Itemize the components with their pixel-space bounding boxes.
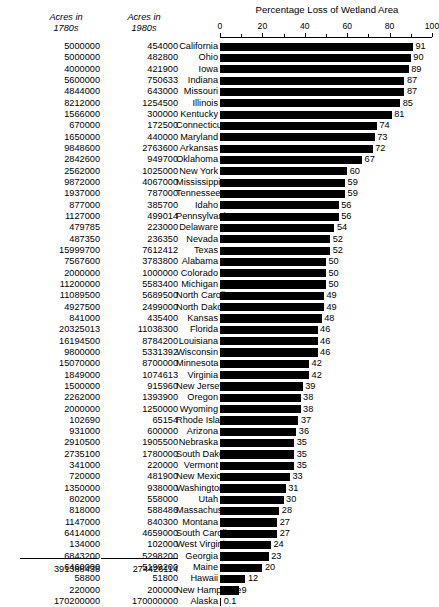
- cell-acres-1780s: 877000: [8, 200, 100, 211]
- cell-state-name: Colorado: [176, 268, 218, 279]
- cell-acres-1980s: 3783800: [96, 256, 178, 267]
- cell-state-name: Michigan: [176, 279, 218, 290]
- cell-acres-1980s: 421900: [96, 64, 178, 75]
- cell-acres-1780s: 4000000: [8, 64, 100, 75]
- cell-acres-1780s: 134000: [8, 539, 100, 550]
- axis-tick-label: 40: [300, 22, 310, 31]
- chart-bar: [220, 348, 318, 356]
- cell-state-name: California: [176, 41, 218, 52]
- cell-acres-1780s: 479785: [8, 222, 100, 233]
- chart-bar: [220, 247, 330, 255]
- cell-acres-1980s: 915960: [96, 381, 178, 392]
- cell-state-name: Maryland: [176, 132, 218, 143]
- chart-rows: 5000000454000California915000000482800Oh…: [0, 41, 439, 607]
- bar-value-label: 33: [292, 471, 302, 482]
- cell-acres-1780s: 9800000: [8, 347, 100, 358]
- cell-acres-1780s: 2000000: [8, 404, 100, 415]
- table-row: 877000385700Idaho56: [0, 200, 439, 211]
- table-row: 29105001905500Nebraska35: [0, 437, 439, 448]
- table-row: 4000000421900Iowa89: [0, 64, 439, 75]
- table-row: 82120001254500Illinois85: [0, 98, 439, 109]
- bar-value-label: 46: [320, 336, 330, 347]
- chart-bar: [220, 258, 326, 266]
- chart-bar: [220, 382, 303, 390]
- chart-bar: [220, 269, 326, 277]
- cell-state-name: Minnesota: [176, 358, 218, 369]
- chart-bar: [220, 473, 290, 481]
- column-header-acres-1780s: Acres in 1780s: [32, 12, 100, 34]
- bar-value-label: 0.1: [224, 596, 237, 607]
- cell-acres-1780s: 1849000: [8, 370, 100, 381]
- cell-acres-1780s: 170200000: [8, 596, 100, 607]
- bar-value-label: 74: [379, 120, 389, 131]
- cell-acres-1980s: 11038300: [96, 324, 178, 335]
- table-row: 487350236350Nevada52: [0, 234, 439, 245]
- cell-acres-1980s: 8784200: [96, 336, 178, 347]
- chart-bar: [220, 326, 318, 334]
- cell-acres-1980s: 300000: [96, 109, 178, 120]
- cell-state-name: Nebraska: [176, 437, 218, 448]
- table-row: 150700008700000Minnesota42: [0, 358, 439, 369]
- cell-state-name: South Carolina: [176, 528, 218, 539]
- cell-state-name: North Carolina: [176, 290, 218, 301]
- table-row: 818000588486Massachusetts28: [0, 505, 439, 516]
- cell-acres-1780s: 15070000: [8, 358, 100, 369]
- chart-bar: [220, 280, 326, 288]
- cell-acres-1780s: 2910500: [8, 437, 100, 448]
- cell-acres-1780s: 841000: [8, 313, 100, 324]
- chart-bar: [220, 598, 221, 606]
- cell-acres-1780s: 2000000: [8, 268, 100, 279]
- table-row: 64140004659000South Carolina27: [0, 528, 439, 539]
- table-row: 931000600000Arizona36: [0, 426, 439, 437]
- table-row: 170200000170000000Alaska0.1: [0, 596, 439, 607]
- chart-bar: [220, 314, 322, 322]
- cell-acres-1780s: 2562000: [8, 166, 100, 177]
- table-row: 341000220000Vermont35: [0, 460, 439, 471]
- cell-acres-1780s: 11089500: [8, 290, 100, 301]
- cell-acres-1980s: 2499000: [96, 302, 178, 313]
- cell-acres-1780s: 9872000: [8, 177, 100, 188]
- cell-state-name: New York: [176, 166, 218, 177]
- table-row: 1350000938000Washington31: [0, 483, 439, 494]
- cell-state-name: Indiana: [176, 75, 218, 86]
- cell-acres-1980s: 938000: [96, 483, 178, 494]
- cell-acres-1780s: 341000: [8, 460, 100, 471]
- table-row: 5000000482800Ohio90: [0, 52, 439, 63]
- cell-state-name: West Virginia: [176, 539, 218, 550]
- chart-bar: [220, 54, 411, 62]
- cell-acres-1780s: 5000000: [8, 41, 100, 52]
- bar-value-label: 56: [341, 211, 351, 222]
- axis-tick-label: 60: [342, 22, 352, 31]
- bar-value-label: 46: [320, 324, 330, 335]
- column-header-acres-1980s-line2: 1980s: [110, 23, 178, 34]
- bar-value-label: 49: [326, 290, 336, 301]
- bar-value-label: 85: [403, 98, 413, 109]
- cell-acres-1980s: 481900: [96, 471, 178, 482]
- cell-acres-1780s: 818000: [8, 505, 100, 516]
- bar-value-label: 27: [280, 517, 290, 528]
- cell-acres-1980s: 8700000: [96, 358, 178, 369]
- cell-acres-1980s: 172500: [96, 120, 178, 131]
- cell-state-name: New Mexico: [176, 471, 218, 482]
- table-row: 159997007612412Texas52: [0, 245, 439, 256]
- chart-bar: [220, 507, 279, 515]
- chart-bar: [220, 518, 277, 526]
- cell-acres-1780s: 2735100: [8, 449, 100, 460]
- table-row: 802000558000Utah30: [0, 494, 439, 505]
- bar-value-label: 24: [273, 539, 283, 550]
- bar-value-label: 38: [303, 404, 313, 415]
- cell-state-name: Wyoming: [176, 404, 218, 415]
- cell-acres-1780s: 487350: [8, 234, 100, 245]
- cell-state-name: Missouri: [176, 86, 218, 97]
- bar-value-label: 36: [299, 426, 309, 437]
- cell-acres-1780s: 2262000: [8, 392, 100, 403]
- table-row: 1566000300000Kentucky81: [0, 109, 439, 120]
- cell-acres-1980s: 223000: [96, 222, 178, 233]
- bar-value-label: 49: [326, 302, 336, 313]
- cell-acres-1780s: 20325013: [8, 324, 100, 335]
- cell-state-name: Delaware: [176, 222, 218, 233]
- cell-state-name: South Dakota: [176, 449, 218, 460]
- bar-value-label: 60: [350, 166, 360, 177]
- chart-bar: [220, 179, 345, 187]
- cell-acres-1780s: 1350000: [8, 483, 100, 494]
